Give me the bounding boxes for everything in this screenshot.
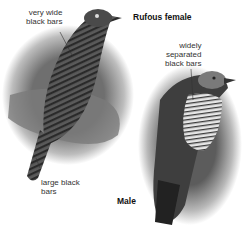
annotation-very-wide-black-bars: very wide black bars: [26, 8, 62, 26]
bird-identification-figure: very wide black bars Rufous female large…: [0, 0, 242, 231]
male-bird-photo: [138, 65, 242, 225]
female-bird-photo: [2, 9, 134, 181]
title-male: Male: [117, 196, 136, 206]
annotation-widely-separated-black-bars: widely separated black bars: [165, 41, 201, 68]
annotation-large-black-bars: large black bars: [41, 178, 80, 196]
title-rufous-female: Rufous female: [133, 12, 192, 22]
